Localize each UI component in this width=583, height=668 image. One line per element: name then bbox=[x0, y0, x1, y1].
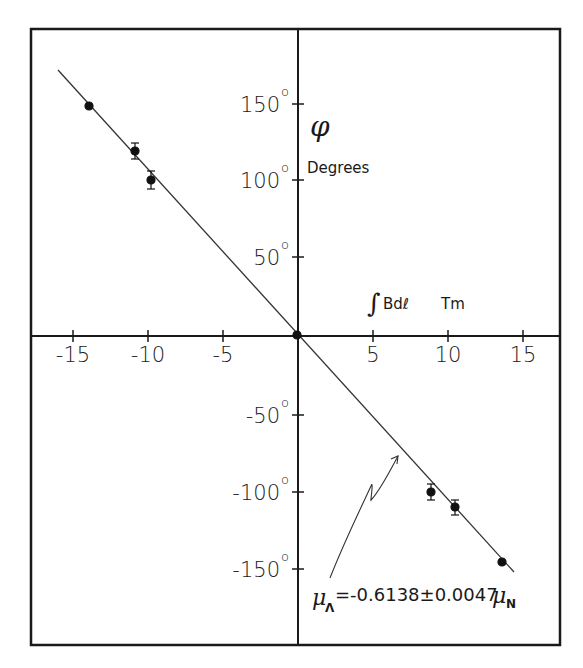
data-point bbox=[293, 331, 301, 339]
y-axis-unit: Degrees bbox=[307, 159, 370, 177]
degree-symbol: o bbox=[281, 472, 289, 487]
annotation-arrow bbox=[330, 456, 398, 578]
degree-symbol: o bbox=[281, 84, 289, 99]
x-axis-unit: Tm bbox=[440, 295, 465, 313]
y-tick-label: 150 bbox=[240, 93, 280, 117]
x-tick-label: -5 bbox=[213, 343, 234, 367]
x-tick-label: -15 bbox=[56, 343, 90, 367]
degree-symbol: o bbox=[281, 395, 289, 410]
y-tick-label: 50 bbox=[253, 246, 280, 270]
degree-symbol: o bbox=[281, 160, 289, 175]
fit-line bbox=[58, 70, 514, 572]
y-tick-label: 100 bbox=[240, 169, 280, 193]
magnetic-moment-value: =-0.6138±0.0047 bbox=[335, 584, 498, 605]
data-point bbox=[147, 176, 155, 184]
data-point bbox=[451, 503, 459, 511]
data-point bbox=[427, 488, 435, 496]
mu-symbol: μ bbox=[492, 583, 506, 608]
y-tick-label: -150 bbox=[232, 558, 280, 582]
degree-symbol: o bbox=[281, 549, 289, 564]
annotation-label: μ Λ =-0.6138±0.0047 μ N bbox=[312, 583, 516, 615]
n-subscript: N bbox=[506, 597, 516, 611]
integral-symbol: ∫ bbox=[367, 288, 381, 318]
y-axis-symbol: φ bbox=[310, 110, 330, 143]
x-tick-label: 5 bbox=[366, 343, 379, 367]
data-point bbox=[131, 147, 139, 155]
y-tick-label: -100 bbox=[232, 481, 280, 505]
data-point bbox=[85, 102, 93, 110]
chart-figure: -15 -10 -5 5 10 15 150 o 100 o 50 o -50 … bbox=[0, 0, 583, 668]
y-tick-label: -50 bbox=[246, 404, 280, 428]
x-tick-label: -10 bbox=[131, 343, 165, 367]
x-tick-label: 15 bbox=[510, 343, 537, 367]
degree-symbol: o bbox=[281, 237, 289, 252]
x-tick-label: 10 bbox=[435, 343, 462, 367]
x-tick-labels: -15 -10 -5 5 10 15 bbox=[56, 343, 537, 367]
x-axis-expression: Bdℓ bbox=[383, 295, 409, 313]
lambda-subscript: Λ bbox=[325, 601, 335, 615]
data-point bbox=[498, 558, 506, 566]
y-tick-labels: 150 o 100 o 50 o -50 o -100 o -150 o bbox=[232, 84, 289, 582]
